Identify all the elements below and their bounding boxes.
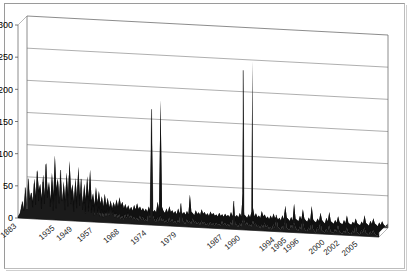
chart-figure: 050100150200250300 188319351949195719681… [0, 0, 409, 276]
y-axis-labels-group: 050100150200250300 [0, 20, 13, 223]
gridline-250 [27, 48, 388, 67]
x-axis-label-1957: 1957 [75, 225, 95, 244]
y-axis-label-250: 250 [0, 52, 13, 62]
y-axis-label-100: 100 [0, 149, 13, 159]
x-axis-label-2005: 2005 [340, 239, 360, 258]
y-axis-label-300: 300 [0, 20, 13, 30]
gridline-300 [27, 16, 388, 35]
x-axis-label-1974: 1974 [129, 228, 149, 247]
y-axis-label-150: 150 [0, 117, 13, 127]
x-axis-label-1968: 1968 [102, 227, 122, 246]
x-axis-label-1935: 1935 [37, 223, 57, 242]
x-axis-label-2002: 2002 [322, 238, 342, 257]
data-series-group [18, 61, 388, 237]
chart-plot-svg: 050100150200250300 188319351949195719681… [0, 0, 409, 276]
y-axis-label-200: 200 [0, 85, 13, 95]
gridline-150 [27, 113, 388, 132]
y-axis-label-50: 50 [3, 181, 13, 191]
x-axis-label-1987: 1987 [205, 232, 225, 251]
gridline-200 [27, 80, 388, 99]
x-axis-label-1979: 1979 [159, 230, 179, 249]
x-axis-label-1949: 1949 [55, 224, 75, 243]
gridline-100 [27, 145, 388, 164]
x-axis-label-1990: 1990 [223, 233, 243, 252]
x-axis-label-1883: 1883 [0, 221, 19, 240]
depth-edge-top-left [18, 16, 27, 25]
